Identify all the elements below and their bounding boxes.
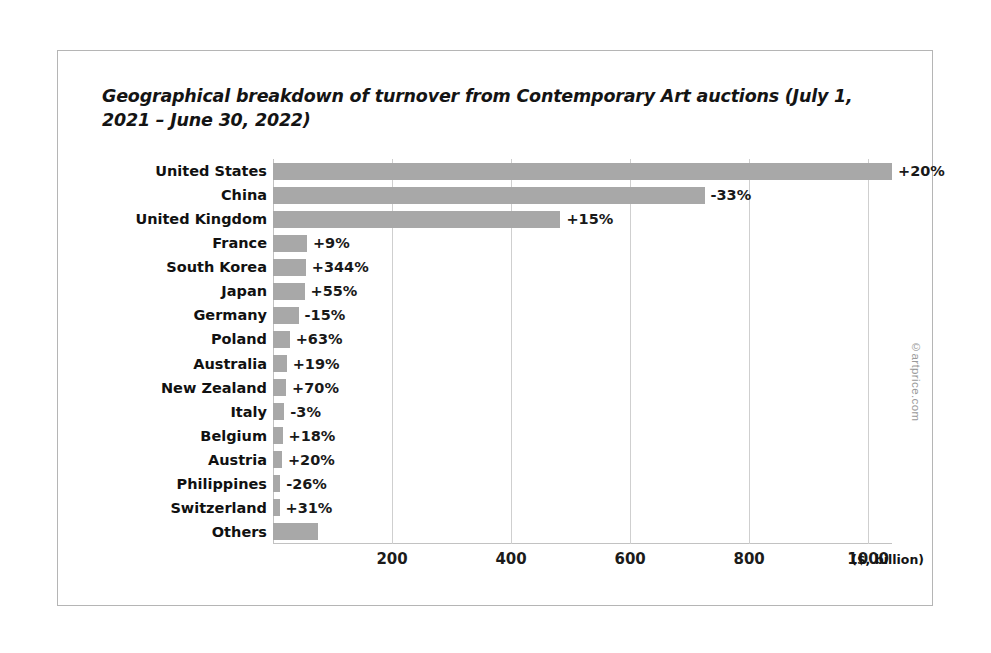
x-tick-label: 200 (376, 550, 407, 568)
bar (273, 187, 705, 204)
bar-row: +70% (273, 379, 892, 396)
bar-row: +18% (273, 427, 892, 444)
bar-value-label: +20% (898, 163, 945, 179)
bar-row: +344% (273, 259, 892, 276)
category-label: Australia (193, 352, 267, 376)
bar-row: +31% (273, 499, 892, 516)
bar-row: +55% (273, 283, 892, 300)
bar-row: +9% (273, 235, 892, 252)
bar (273, 163, 892, 180)
x-axis-ticks: 2004006008001000 (273, 544, 892, 578)
category-label: France (212, 231, 267, 255)
chart-title: Geographical breakdown of turnover from … (102, 85, 892, 132)
bar (273, 427, 283, 444)
bar-row: -15% (273, 307, 892, 324)
category-label: New Zealand (161, 376, 267, 400)
category-label: Philippines (177, 472, 267, 496)
bar-row (273, 523, 892, 540)
bar-row: +19% (273, 355, 892, 372)
category-label: Germany (193, 303, 267, 327)
bar (273, 355, 287, 372)
bar-row: +20% (273, 163, 892, 180)
bar-value-label: -26% (286, 476, 327, 492)
category-label: China (221, 183, 267, 207)
bar-row: +63% (273, 331, 892, 348)
watermark: ©artprice.com (910, 341, 922, 421)
x-tick-label: 800 (733, 550, 764, 568)
bar (273, 211, 560, 228)
bar (273, 379, 286, 396)
bar-value-label: +19% (293, 356, 340, 372)
bar-value-label: -3% (290, 404, 321, 420)
bar (273, 307, 299, 324)
bar (273, 403, 284, 420)
bar-value-label: +55% (311, 283, 358, 299)
category-label: Switzerland (170, 496, 267, 520)
bar (273, 523, 318, 540)
x-tick-label: 600 (614, 550, 645, 568)
bar (273, 259, 306, 276)
bar (273, 475, 280, 492)
bar-row: +20% (273, 451, 892, 468)
bar (273, 499, 280, 516)
bar-value-label: +31% (286, 500, 333, 516)
category-axis: United StatesChinaUnited KingdomFranceSo… (102, 159, 273, 544)
bar-value-label: +9% (313, 235, 350, 251)
axis-unit-label: ($, billion) (851, 552, 924, 567)
bar (273, 283, 305, 300)
bar (273, 451, 282, 468)
bar-value-label: +20% (288, 452, 335, 468)
category-label: Italy (230, 400, 267, 424)
bar-row: -3% (273, 403, 892, 420)
bar-row: -26% (273, 475, 892, 492)
bar-value-label: +18% (289, 428, 336, 444)
category-label: United Kingdom (135, 207, 267, 231)
category-label: South Korea (166, 255, 267, 279)
bar-value-label: +63% (296, 331, 343, 347)
category-label: Japan (221, 279, 267, 303)
bar-row: -33% (273, 187, 892, 204)
category-label: United States (155, 159, 267, 183)
bar-row: +15% (273, 211, 892, 228)
plot-area: United StatesChinaUnited KingdomFranceSo… (102, 159, 892, 579)
bar-value-label: -33% (711, 187, 752, 203)
bar-value-label: +344% (312, 259, 369, 275)
category-label: Poland (211, 327, 267, 351)
x-tick-label: 400 (495, 550, 526, 568)
bar-value-label: +15% (566, 211, 613, 227)
bar-value-label: +70% (292, 380, 339, 396)
figure-frame: Geographical breakdown of turnover from … (57, 50, 933, 606)
bar (273, 331, 290, 348)
category-label: Belgium (200, 424, 267, 448)
bar (273, 235, 307, 252)
bars-region: +20%-33%+15%+9%+344%+55%-15%+63%+19%+70%… (273, 159, 892, 544)
category-label: Others (212, 520, 267, 544)
bar-value-label: -15% (305, 307, 346, 323)
category-label: Austria (208, 448, 267, 472)
